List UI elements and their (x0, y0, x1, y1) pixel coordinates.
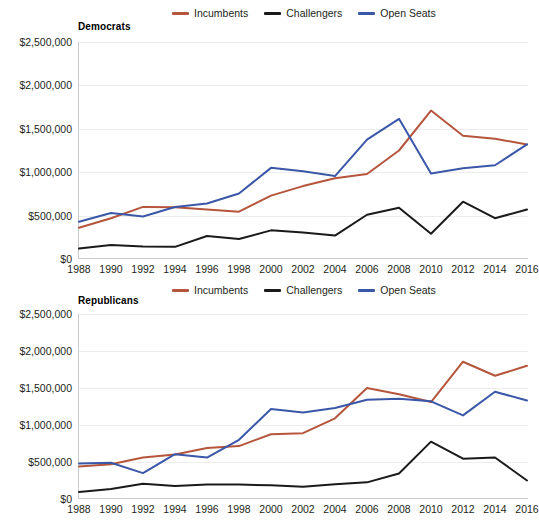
republicans-x-axis-ticks: 1988199019921994199619982000200220042006… (78, 503, 528, 517)
x-axis-tick-label: 1994 (163, 503, 186, 515)
democrats-series-lines (78, 42, 528, 259)
democrats-x-axis-ticks: 1988199019921994199619982000200220042006… (78, 263, 528, 277)
x-axis-tick-label: 1988 (67, 503, 90, 515)
legend-item-challengers[interactable]: Challengers (264, 8, 342, 19)
x-axis-tick-label: 2006 (355, 503, 378, 515)
republicans-series-lines (78, 314, 528, 499)
democrats-plot-area (78, 42, 528, 259)
legend-label: Challengers (286, 285, 342, 296)
x-axis-tick-label: 1988 (67, 263, 90, 275)
legend-item-open-seats[interactable]: Open Seats (358, 8, 435, 19)
republicans-y-axis-ticks: $0$500,000$1,000,000$1,500,000$2,000,000… (0, 314, 72, 499)
x-axis-tick-label: 2008 (387, 263, 410, 275)
y-axis-tick-label: $2,500,000 (19, 36, 72, 48)
x-axis-tick-label: 2000 (259, 263, 282, 275)
y-axis-tick-label: $500,000 (28, 210, 72, 222)
x-axis-tick-label: 2002 (291, 263, 314, 275)
y-axis-tick-label: $1,000,000 (19, 419, 72, 431)
legend-swatch-icon (172, 12, 189, 15)
democrats-y-axis-ticks: $0$500,000$1,000,000$1,500,000$2,000,000… (0, 42, 72, 259)
x-axis-tick-label: 2010 (419, 263, 442, 275)
x-axis-tick-label: 1998 (227, 263, 250, 275)
democrats-chart-panel: Democrats IncumbentsChallengersOpen Seat… (0, 0, 537, 281)
republicans-plot-area (78, 314, 528, 499)
x-axis-tick-label: 2012 (451, 503, 474, 515)
legend-item-incumbents[interactable]: Incumbents (172, 285, 248, 296)
legend-swatch-icon (358, 12, 375, 15)
legend-label: Open Seats (380, 8, 435, 19)
legend-item-incumbents[interactable]: Incumbents (172, 8, 248, 19)
x-axis-tick-label: 1994 (163, 263, 186, 275)
x-axis-tick-label: 2014 (483, 503, 506, 515)
x-axis-tick-label: 1992 (131, 503, 154, 515)
series-line-challengers (79, 202, 527, 249)
y-axis-tick-label: $2,000,000 (19, 79, 72, 91)
x-axis-tick-label: 1996 (195, 503, 218, 515)
legend-swatch-icon (264, 12, 281, 15)
x-axis-tick-label: 2002 (291, 503, 314, 515)
y-axis-tick-label: $2,500,000 (19, 308, 72, 320)
legend-label: Open Seats (380, 285, 435, 296)
democrats-panel-title: Democrats (78, 21, 131, 32)
y-axis-tick-label: $2,000,000 (19, 345, 72, 357)
x-axis-tick-label: 2008 (387, 503, 410, 515)
x-axis-tick-label: 1992 (131, 263, 154, 275)
x-axis-tick-label: 1998 (227, 503, 250, 515)
x-axis-tick-label: 2014 (483, 263, 506, 275)
legend-label: Challengers (286, 8, 342, 19)
y-axis-tick-label: $1,500,000 (19, 123, 72, 135)
x-axis-tick-label: 1990 (99, 263, 122, 275)
legend-item-open-seats[interactable]: Open Seats (358, 285, 435, 296)
x-axis-tick-label: 2006 (355, 263, 378, 275)
legend-swatch-icon (172, 289, 189, 292)
republicans-chart-legend: IncumbentsChallengersOpen Seats (172, 285, 436, 296)
y-axis-tick-label: $1,500,000 (19, 382, 72, 394)
legend-item-challengers[interactable]: Challengers (264, 285, 342, 296)
x-axis-tick-label: 2004 (323, 263, 346, 275)
republicans-chart-panel: Republicans IncumbentsChallengersOpen Se… (0, 281, 537, 531)
republicans-panel-title: Republicans (78, 295, 139, 306)
x-axis-tick-label: 2016 (515, 503, 538, 515)
x-axis-tick-label: 1990 (99, 503, 122, 515)
x-axis-tick-label: 2000 (259, 503, 282, 515)
x-axis-tick-label: 2010 (419, 503, 442, 515)
x-axis-tick-label: 1996 (195, 263, 218, 275)
legend-swatch-icon (264, 289, 281, 292)
series-line-challengers (79, 442, 527, 492)
legend-label: Incumbents (194, 8, 248, 19)
legend-label: Incumbents (194, 285, 248, 296)
y-axis-tick-label: $500,000 (28, 456, 72, 468)
x-axis-tick-label: 2016 (515, 263, 538, 275)
x-axis-tick-label: 2004 (323, 503, 346, 515)
y-axis-tick-label: $1,000,000 (19, 166, 72, 178)
democrats-chart-legend: IncumbentsChallengersOpen Seats (172, 8, 436, 19)
x-axis-tick-label: 2012 (451, 263, 474, 275)
legend-swatch-icon (358, 289, 375, 292)
